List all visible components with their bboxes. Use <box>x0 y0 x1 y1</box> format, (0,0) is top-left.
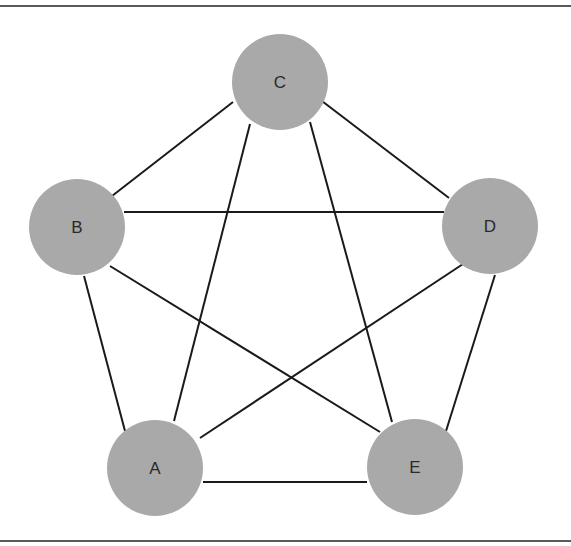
edge-d-a <box>200 264 463 438</box>
node-e: E <box>367 419 463 515</box>
edge-b-a <box>84 276 125 431</box>
node-label: E <box>409 458 420 477</box>
node-d: D <box>442 178 538 274</box>
node-label: A <box>149 459 161 478</box>
node-label: D <box>484 217 496 236</box>
node-a: A <box>107 420 203 516</box>
node-label: C <box>274 73 286 92</box>
node-b: B <box>29 179 125 275</box>
edge-d-e <box>446 275 495 431</box>
graph-canvas: ABCDE <box>0 0 571 546</box>
graph-diagram: ABCDE <box>0 0 571 546</box>
node-c: C <box>232 34 328 130</box>
edge-c-d <box>318 98 449 198</box>
nodes-layer: ABCDE <box>29 34 538 516</box>
edge-c-e <box>310 122 392 422</box>
node-label: B <box>71 218 82 237</box>
edge-b-c <box>112 102 233 196</box>
edge-c-a <box>174 124 250 421</box>
